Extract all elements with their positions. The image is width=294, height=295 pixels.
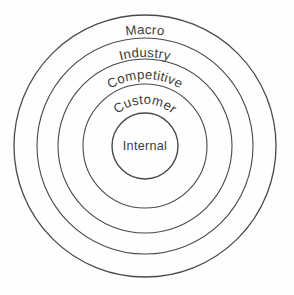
diagram-canvas: Macro Industry Competitive Customer Inte…	[0, 0, 294, 295]
ring-label-industry: Industry	[117, 45, 172, 63]
concentric-circles-diagram: Macro Industry Competitive Customer Inte…	[0, 0, 294, 295]
ring-label-macro: Macro	[125, 22, 166, 39]
ring-label-internal: Internal	[123, 139, 167, 153]
ring-label-competitive: Competitive	[104, 67, 185, 91]
